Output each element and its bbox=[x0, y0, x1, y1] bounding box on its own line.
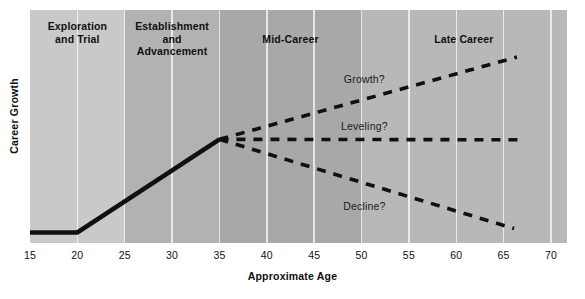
x-tick-70: 70 bbox=[536, 249, 566, 261]
x-tick-35: 35 bbox=[204, 249, 234, 261]
x-tick-45: 45 bbox=[299, 249, 329, 261]
x-tick-65: 65 bbox=[489, 249, 519, 261]
x-tick-25: 25 bbox=[110, 249, 140, 261]
annotation-leveling-: Leveling? bbox=[341, 120, 388, 132]
x-axis-label: Approximate Age bbox=[0, 270, 585, 282]
x-tick-55: 55 bbox=[394, 249, 424, 261]
x-tick-60: 60 bbox=[441, 249, 471, 261]
annotation-decline-: Decline? bbox=[343, 200, 385, 212]
x-tick-20: 20 bbox=[62, 249, 92, 261]
career-curves bbox=[30, 10, 567, 243]
curve-career-path bbox=[30, 139, 219, 232]
plot-area: Explorationand Trial EstablishmentandAdv… bbox=[30, 10, 567, 243]
annotation-growth-: Growth? bbox=[344, 73, 385, 85]
x-tick-40: 40 bbox=[252, 249, 282, 261]
x-tick-50: 50 bbox=[347, 249, 377, 261]
y-axis-label: Career Growth bbox=[8, 51, 20, 181]
curve-decline- bbox=[219, 139, 514, 228]
career-stage-chart: Explorationand Trial EstablishmentandAdv… bbox=[0, 0, 585, 299]
x-tick-15: 15 bbox=[15, 249, 45, 261]
x-tick-30: 30 bbox=[157, 249, 187, 261]
